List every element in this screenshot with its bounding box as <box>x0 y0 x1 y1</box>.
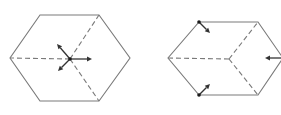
dashed-hidden-edge <box>229 59 258 95</box>
force-arrow-shaft <box>60 48 70 59</box>
dashed-hidden-edge <box>70 59 99 101</box>
left-hexagon-panel <box>10 15 130 101</box>
vertex-point <box>197 20 201 24</box>
right-hexagon-panel <box>168 20 281 97</box>
center-point <box>68 57 72 61</box>
dashed-hidden-edge <box>70 15 99 59</box>
arrowhead-icon <box>87 57 92 62</box>
hexagon-diagram <box>0 0 281 115</box>
arrowhead-icon <box>265 56 270 61</box>
dashed-hidden-edge <box>229 22 258 59</box>
dashed-hidden-edge <box>10 58 70 59</box>
vertex-point <box>197 93 201 97</box>
diagram-canvas <box>0 0 281 115</box>
dashed-hidden-edge <box>168 58 229 59</box>
